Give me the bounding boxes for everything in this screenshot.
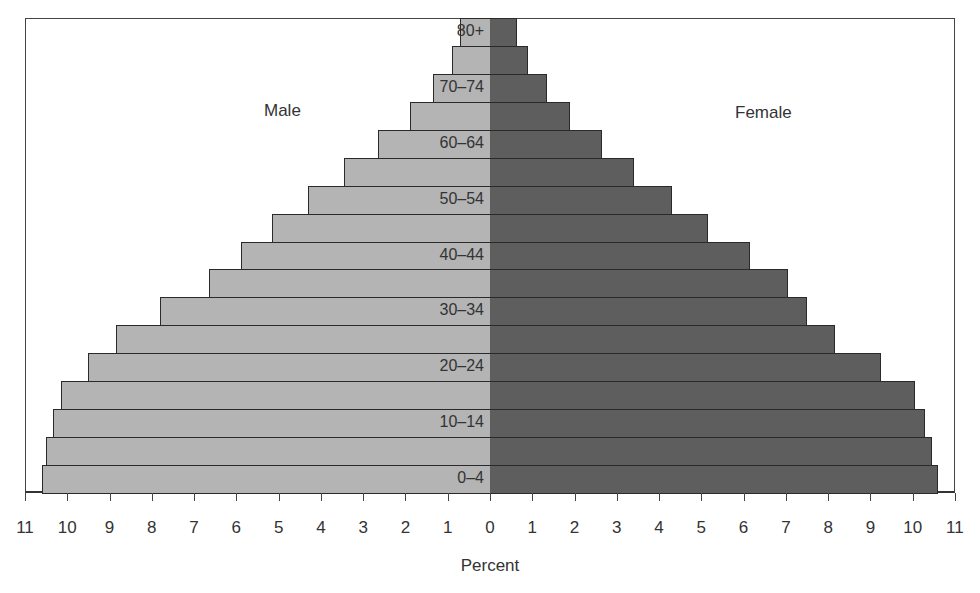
x-tick-label: 5: [686, 518, 716, 538]
female-bar-45–49: [490, 214, 708, 243]
x-tick-label: 9: [95, 518, 125, 538]
x-tick-label: 1: [433, 518, 463, 538]
x-tick-label: 7: [771, 518, 801, 538]
age-group-label: 20–24: [404, 357, 484, 375]
age-group-label: 30–34: [404, 301, 484, 319]
x-tick-label: 2: [560, 518, 590, 538]
female-bar-50–54: [490, 186, 672, 215]
female-bar-55–59: [490, 158, 634, 187]
x-tick: [110, 493, 111, 501]
age-group-label: 80+: [404, 22, 484, 40]
x-tick: [532, 493, 533, 501]
x-tick-label: 9: [855, 518, 885, 538]
x-tick-label: 6: [221, 518, 251, 538]
female-bar-0–4: [490, 465, 938, 494]
x-tick: [490, 493, 491, 501]
male-bar-5–9: [46, 437, 490, 466]
x-tick: [448, 493, 449, 501]
x-tick: [828, 493, 829, 501]
female-bar-75–79: [490, 46, 528, 75]
x-tick: [321, 493, 322, 501]
x-tick-label: 3: [348, 518, 378, 538]
x-tick-label: 5: [264, 518, 294, 538]
x-axis-label: Percent: [0, 556, 980, 576]
x-tick: [363, 493, 364, 501]
x-tick-label: 8: [137, 518, 167, 538]
female-bar-5–9: [490, 437, 932, 466]
age-group-label: 70–74: [404, 78, 484, 96]
x-tick: [701, 493, 702, 501]
male-bar-35–39: [209, 269, 490, 298]
x-tick-label: 8: [813, 518, 843, 538]
x-tick: [870, 493, 871, 501]
x-tick: [67, 493, 68, 501]
x-tick: [913, 493, 914, 501]
x-tick-label: 0: [475, 518, 505, 538]
female-bar-40–44: [490, 242, 750, 271]
male-bar-55–59: [344, 158, 490, 187]
female-bar-30–34: [490, 297, 807, 326]
male-bar-75–79: [452, 46, 490, 75]
female-bar-80+: [490, 18, 517, 47]
x-tick: [405, 493, 406, 501]
male-bar-45–49: [272, 214, 490, 243]
x-tick: [617, 493, 618, 501]
x-tick-label: 1: [517, 518, 547, 538]
x-tick-label: 3: [602, 518, 632, 538]
female-bar-25–29: [490, 325, 835, 354]
x-tick: [575, 493, 576, 501]
x-tick-label: 11: [10, 518, 40, 538]
x-tick: [786, 493, 787, 501]
x-tick: [659, 493, 660, 501]
age-group-label: 50–54: [404, 190, 484, 208]
x-tick: [744, 493, 745, 501]
x-tick: [25, 493, 26, 501]
female-bar-65–69: [490, 102, 570, 131]
x-tick: [152, 493, 153, 501]
female-bar-10–14: [490, 409, 925, 438]
x-tick: [194, 493, 195, 501]
x-tick-label: 7: [179, 518, 209, 538]
male-bar-15–19: [61, 381, 490, 410]
female-bar-20–24: [490, 353, 881, 382]
female-bar-35–39: [490, 269, 788, 298]
x-tick-label: 10: [898, 518, 928, 538]
male-bar-25–29: [116, 325, 490, 354]
x-tick-label: 10: [52, 518, 82, 538]
female-bar-60–64: [490, 130, 602, 159]
female-bar-70–74: [490, 74, 547, 103]
age-group-label: 60–64: [404, 134, 484, 152]
x-tick-label: 4: [644, 518, 674, 538]
x-tick-label: 6: [729, 518, 759, 538]
x-tick: [236, 493, 237, 501]
male-label: Male: [264, 101, 301, 121]
age-group-label: 0–4: [404, 469, 484, 487]
x-tick-label: 4: [306, 518, 336, 538]
age-group-label: 10–14: [404, 413, 484, 431]
female-label: Female: [735, 103, 792, 123]
female-bar-15–19: [490, 381, 915, 410]
x-tick: [279, 493, 280, 501]
x-tick-label: 2: [390, 518, 420, 538]
age-group-label: 40–44: [404, 246, 484, 264]
x-tick: [955, 493, 956, 501]
male-bar-65–69: [410, 102, 490, 131]
x-tick-label: 11: [940, 518, 970, 538]
